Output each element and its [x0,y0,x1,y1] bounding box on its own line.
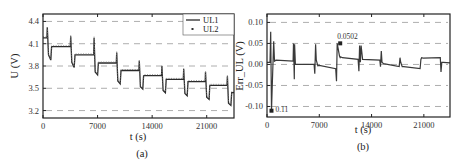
annotation-max: 0.0502 [337,32,358,41]
legend-label-ul2: UL2 [203,24,219,34]
x-tick-label: 7000 [311,120,328,130]
y-tick-label: 0.00 [248,59,263,69]
y-tick-label: 3.2 [28,106,39,116]
y-tick-label: 4.1 [28,39,39,49]
x-tick-label: 0 [41,121,45,131]
y-tick-label: 4.4 [28,16,39,26]
y-tick-label: 0.10 [248,17,263,27]
x-tick-label: 21000 [196,121,217,131]
x-tick-label: 14000 [142,121,163,131]
chart-a: 3.23.53.84.14.4070001400021000 U (V) t (… [9,14,234,160]
y-axis-label-a: U (V) [9,53,21,78]
min-marker-icon [269,109,273,113]
y-tick-label: 3.5 [28,83,39,93]
y-tick-label: 3.8 [28,61,39,71]
caption-a: (a) [136,148,148,160]
x-axis-label-a: t (s) [130,131,147,143]
max-marker-icon [338,41,342,45]
caption-b: (b) [357,141,370,153]
annotation-min: 0.11 [275,105,288,114]
y-tick-label: 0.05 [248,38,263,48]
y-tick-label: -0.10 [245,101,263,111]
figure: 3.23.53.84.14.4070001400021000 U (V) t (… [0,0,465,162]
chart-b: 0.100.050.00-0.05-0.10070001400021000 Er… [234,14,450,153]
legend-marker-icon [192,28,194,30]
x-tick-label: 0 [265,120,269,130]
x-tick-label: 7000 [89,121,106,131]
y-axis-label-b: Err_UL (V) [234,41,246,91]
x-tick-label: 21000 [413,120,434,130]
legend-a: UL1 UL2 [183,14,234,35]
y-tick-label: -0.05 [245,80,263,90]
x-axis-label-b: t (s) [355,124,372,136]
